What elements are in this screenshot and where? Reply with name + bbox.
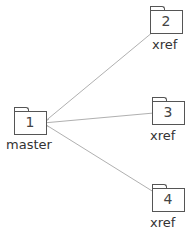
folder-icon: 4 (152, 184, 184, 212)
node-number: 1 (14, 111, 46, 133)
node-label: master (6, 137, 52, 152)
edge-2-to-1 (43, 22, 165, 123)
edge-3-to-1 (43, 112, 165, 123)
folder-icon: 2 (150, 6, 182, 34)
folder-icon: 1 (14, 107, 46, 135)
node-label: xref (150, 215, 175, 230)
node-xref-4[interactable]: 4 xref (152, 184, 186, 212)
node-label: xref (152, 37, 177, 52)
node-xref-3[interactable]: 3 xref (152, 97, 186, 125)
node-number: 4 (152, 188, 184, 210)
folder-icon: 3 (152, 97, 184, 125)
node-master[interactable]: 1 master (14, 107, 48, 135)
edge-4-to-1 (43, 123, 165, 199)
node-xref-2[interactable]: 2 xref (150, 6, 184, 34)
node-number: 2 (150, 10, 182, 32)
node-label: xref (150, 128, 175, 143)
node-number: 3 (152, 101, 184, 123)
